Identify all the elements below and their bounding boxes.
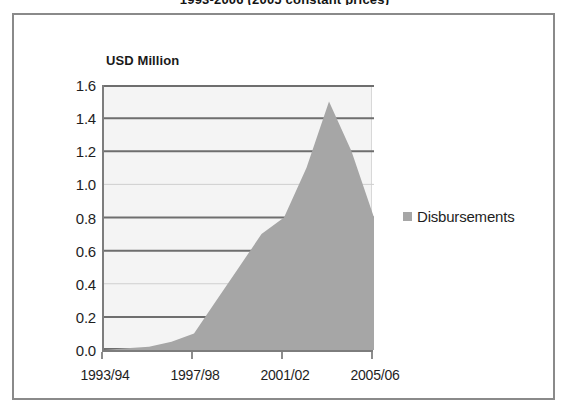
y-axis-tick-label: 1.6: [50, 77, 96, 94]
x-axis-tick-label: 1993/94: [80, 367, 129, 383]
legend-swatch-disbursements: [403, 212, 412, 221]
x-axis-tick-label: 2001/02: [260, 367, 309, 383]
x-axis-tick-mark: [281, 352, 283, 359]
y-axis-tick-label: 0.2: [50, 308, 96, 325]
x-axis-tick-mark: [191, 352, 193, 359]
y-axis-tick-label: 1.0: [50, 176, 96, 193]
area-fill-disbursements: [104, 102, 374, 350]
y-axis-tick-label: 0.6: [50, 242, 96, 259]
chart-legend: Disbursements: [403, 208, 514, 225]
area-series-disbursements: [104, 85, 374, 350]
plot-area: [102, 85, 372, 350]
y-axis-title: USD Million: [106, 53, 179, 68]
legend-label-disbursements: Disbursements: [417, 208, 514, 225]
y-axis-tick-label: 0.8: [50, 209, 96, 226]
x-axis-tick-mark: [101, 352, 103, 359]
y-axis-tick-label: 1.2: [50, 143, 96, 160]
y-axis-tick-label: 0.0: [50, 342, 96, 359]
x-axis-tick-mark: [371, 352, 373, 359]
x-axis-tick-label: 1997/98: [170, 367, 219, 383]
y-axis-tick-label: 0.4: [50, 275, 96, 292]
y-axis-tick-labels: 1.61.41.21.00.80.60.40.20.0: [44, 85, 96, 350]
chart-title: 1993-2006 (2005 constant prices): [0, 0, 569, 5]
y-axis-tick-label: 1.4: [50, 110, 96, 127]
x-axis-tick-label: 2005/06: [350, 367, 399, 383]
chart-frame: USD Million 1.61.41.21.00.80.60.40.20.0 …: [12, 13, 555, 400]
x-axis-line: [102, 350, 373, 352]
